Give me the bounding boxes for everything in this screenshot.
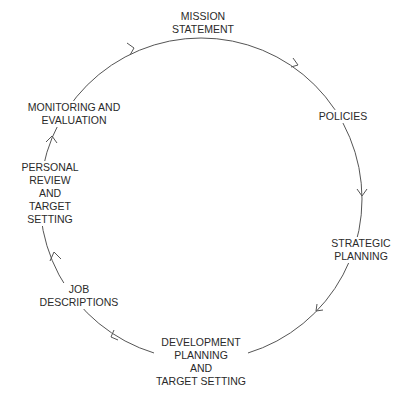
node-personal-review: PERSONAL REVIEW AND TARGET SETTING — [19, 161, 80, 226]
node-label-line: REVIEW — [21, 174, 78, 187]
node-mission-statement: MISSION STATEMENT — [170, 10, 236, 36]
node-label-line: SETTING — [21, 213, 78, 226]
node-label-line: MISSION — [172, 10, 234, 23]
node-strategic-planning: STRATEGIC PLANNING — [329, 237, 392, 263]
node-label-line: JOB — [40, 283, 119, 296]
node-label-line: PERSONAL — [21, 161, 78, 174]
node-label-line: EVALUATION — [28, 114, 121, 127]
node-label-line: STRATEGIC — [331, 237, 390, 250]
node-label-line: PLANNING — [331, 250, 390, 263]
node-label-line: TARGET SETTING — [156, 375, 246, 388]
node-development-planning: DEVELOPMENT PLANNING AND TARGET SETTING — [154, 336, 248, 388]
node-label-line: TARGET — [21, 200, 78, 213]
node-job-descriptions: JOB DESCRIPTIONS — [38, 283, 121, 309]
node-label-line: DESCRIPTIONS — [40, 296, 119, 309]
node-label-line: DEVELOPMENT — [156, 336, 246, 349]
node-label-line: AND — [156, 362, 246, 375]
node-label-line: STATEMENT — [172, 23, 234, 36]
node-policies: POLICIES — [317, 110, 369, 123]
node-label-line: MONITORING AND — [28, 101, 121, 114]
node-label-line: POLICIES — [319, 110, 367, 123]
node-label-line: AND — [21, 187, 78, 200]
node-monitoring-evaluation: MONITORING AND EVALUATION — [26, 101, 123, 127]
node-label-line: PLANNING — [156, 349, 246, 362]
cycle-circle — [40, 38, 362, 360]
